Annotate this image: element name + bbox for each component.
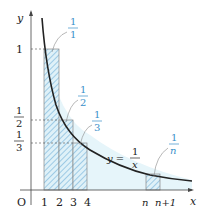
svg-text:1: 1	[16, 105, 22, 116]
svg-text:1: 1	[70, 16, 76, 27]
y-axis-arrow-icon	[29, 10, 33, 16]
svg-text:1: 1	[171, 132, 177, 143]
x-tick-3: 3	[70, 196, 77, 209]
label-1-over-2: 1 2	[78, 84, 88, 108]
x-tick-n-plus-1: n+1	[155, 197, 176, 208]
svg-text:1: 1	[16, 129, 22, 140]
y-tick-third: 1 3	[14, 129, 24, 153]
harmonic-area-diagram: y x O 1 2 3 4 n n+1 1 1 2 1 3 1 1 1 2 1 …	[0, 0, 204, 215]
x-tick-2: 2	[56, 196, 63, 209]
label-1-over-3: 1 3	[92, 109, 102, 133]
y-axis-label: y	[16, 12, 24, 25]
rect-1	[44, 49, 59, 190]
rect-2	[59, 120, 73, 190]
svg-text:3: 3	[94, 122, 100, 133]
svg-text:2: 2	[16, 118, 22, 129]
origin-label: O	[17, 196, 26, 209]
x-tick-4: 4	[84, 196, 91, 209]
svg-text:2: 2	[80, 97, 86, 108]
y-tick-half: 1 2	[14, 105, 24, 129]
svg-text:x: x	[132, 159, 138, 170]
svg-text:3: 3	[16, 142, 22, 153]
label-1-over-n: 1 n	[169, 132, 179, 156]
y-tick-1: 1	[16, 43, 23, 56]
svg-text:1: 1	[132, 146, 138, 157]
svg-text:1: 1	[80, 84, 86, 95]
svg-text:y =: y =	[106, 153, 124, 164]
x-axis-label: x	[190, 195, 197, 208]
svg-text:1: 1	[70, 29, 76, 40]
label-1-over-1: 1 1	[68, 16, 78, 40]
rect-3	[73, 143, 87, 190]
svg-text:1: 1	[94, 109, 100, 120]
x-tick-n: n	[142, 197, 148, 208]
x-tick-1: 1	[41, 196, 48, 209]
svg-text:n: n	[170, 145, 176, 156]
